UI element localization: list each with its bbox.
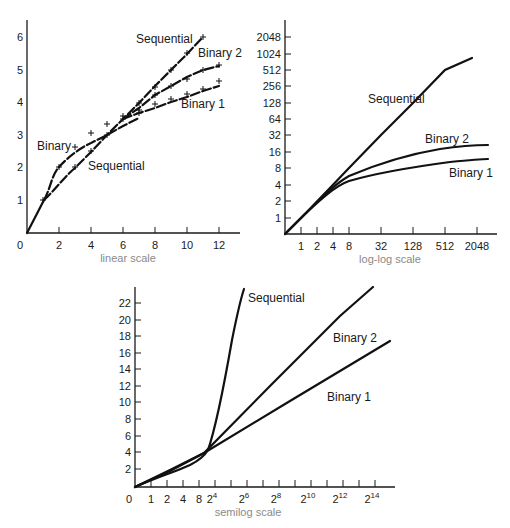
x-tick-label: 512 <box>436 240 454 252</box>
y-tick-label: 4 <box>275 179 281 191</box>
y-tick-label: 16 <box>269 146 281 158</box>
label-binary2: Binary 2 <box>198 46 242 60</box>
x-axis-title: linear scale <box>100 252 156 264</box>
figure: 0 2 4 6 8 10 12 1 2 3 4 5 6 linear scale <box>0 0 510 528</box>
y-tick-label: 12 <box>119 380 131 392</box>
x-tick-label: 1 <box>148 493 154 505</box>
binary2-curve <box>135 287 373 487</box>
label-sequential: Sequential <box>248 291 305 305</box>
x-tick-label: 1 <box>298 240 304 252</box>
x-tick-label: 2 <box>56 239 62 251</box>
y-tick-label: 3 <box>17 129 23 141</box>
label-binary1: Binary 1 <box>327 390 371 404</box>
x-ticks <box>151 480 375 487</box>
label-sequential: Sequential <box>368 92 425 106</box>
x-tick-label: 8 <box>346 240 352 252</box>
binary2-curve <box>123 66 219 119</box>
y-tick-label: 5 <box>17 64 23 76</box>
y-tick-label: 2 <box>17 161 23 173</box>
origin-label: 0 <box>126 493 132 505</box>
common-segment <box>27 200 44 233</box>
label-binary2: Binary 2 <box>333 331 377 345</box>
x-tick-label: 4 <box>180 493 186 505</box>
x-tick-label: 4 <box>88 239 94 251</box>
x-tick-label: 8 <box>152 239 158 251</box>
data-markers <box>40 34 222 203</box>
x-axis-title: log-log scale <box>359 253 421 265</box>
loglog-chart: 1 2 4 8 32 128 512 2048 1 2 4 8 16 32 64… <box>257 20 497 265</box>
origin-label: 0 <box>17 239 23 251</box>
y-tick-label: 20 <box>119 314 131 326</box>
x-tick-label: 10 <box>181 239 193 251</box>
y-ticks <box>135 303 141 469</box>
y-tick-label: 32 <box>269 129 281 141</box>
y-tick-label: 6 <box>17 31 23 43</box>
y-tick-label: 2 <box>125 463 131 475</box>
y-tick-label: 2048 <box>257 31 281 43</box>
x-tick-label: 6 <box>120 239 126 251</box>
semilog-chart: 0 1 2 4 8 24 26 28 210 212 214 2 4 6 8 1… <box>119 287 395 518</box>
x-tick-label-pow: 28 <box>271 491 282 505</box>
x-tick-label: 8 <box>196 493 202 505</box>
label-binary2: Binary 2 <box>425 132 469 146</box>
y-tick-label: 8 <box>125 413 131 425</box>
y-tick-label: 2 <box>275 195 281 207</box>
y-tick-label: 64 <box>269 113 281 125</box>
x-tick-label: 4 <box>330 240 336 252</box>
label-binary1: Binary 1 <box>181 97 225 111</box>
x-tick-label-pow: 26 <box>239 491 250 505</box>
y-tick-label: 22 <box>119 297 131 309</box>
y-tick-label: 512 <box>263 64 281 76</box>
label-sequential-bottom: Sequential <box>88 159 145 173</box>
x-ticks <box>59 227 219 233</box>
y-tick-label: 14 <box>119 363 131 375</box>
y-tick-label: 6 <box>125 430 131 442</box>
x-tick-label-pow: 24 <box>207 491 218 505</box>
y-tick-label: 1 <box>275 212 281 224</box>
x-axis-title: semilog scale <box>215 506 282 518</box>
y-ticks <box>285 37 291 218</box>
y-tick-label: 4 <box>17 96 23 108</box>
x-ticks <box>301 227 477 234</box>
x-tick-label-pow: 214 <box>364 491 380 505</box>
x-tick-label: 12 <box>213 239 225 251</box>
y-tick-label: 1 <box>17 194 23 206</box>
x-tick-label: 128 <box>404 240 422 252</box>
label-sequential-top: Sequential <box>136 32 193 46</box>
sequential-curve <box>135 289 244 487</box>
x-tick-label: 2 <box>164 493 170 505</box>
x-tick-label-pow: 210 <box>300 491 316 505</box>
y-tick-label: 256 <box>263 80 281 92</box>
x-tick-label: 2048 <box>465 240 489 252</box>
y-tick-label: 8 <box>275 162 281 174</box>
y-tick-label: 16 <box>119 347 131 359</box>
binary2-curve <box>285 145 488 234</box>
y-tick-label: 4 <box>125 446 131 458</box>
y-tick-label: 18 <box>119 330 131 342</box>
x-tick-label: 32 <box>375 240 387 252</box>
x-tick-label: 2 <box>314 240 320 252</box>
y-tick-label: 128 <box>263 97 281 109</box>
y-tick-label: 1024 <box>257 48 281 60</box>
linear-chart: 0 2 4 6 8 10 12 1 2 3 4 5 6 linear scale <box>17 20 242 264</box>
binary1-curve <box>135 341 390 487</box>
label-binary: Binary <box>37 139 71 153</box>
x-tick-label-pow: 212 <box>332 491 348 505</box>
label-binary1: Binary 1 <box>449 166 493 180</box>
y-tick-label: 10 <box>119 396 131 408</box>
